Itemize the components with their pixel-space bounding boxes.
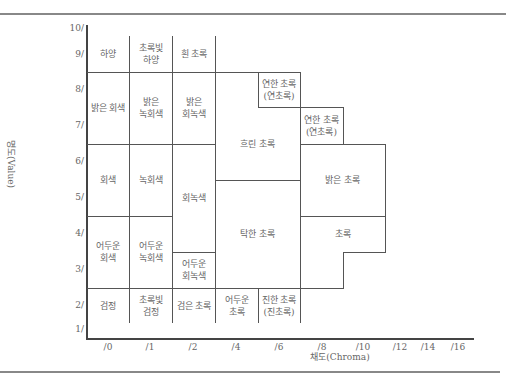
x-tick: /10 xyxy=(348,342,378,352)
y-tick: 4/ xyxy=(60,228,84,238)
region-label: 녹회색 xyxy=(130,144,172,216)
grid-line xyxy=(343,107,344,144)
region-label: 연한 초록 (연초록) xyxy=(258,72,300,108)
x-tick: /12 xyxy=(385,342,415,352)
x-tick: /2 xyxy=(178,342,208,352)
y-tick: 7/ xyxy=(60,120,84,130)
region-label: 흰 초록 xyxy=(173,36,215,72)
region-label: 연한 초록 (연초록) xyxy=(300,107,343,144)
y-tick: 9/ xyxy=(60,49,84,59)
grid-line xyxy=(343,252,344,288)
region-label: 초록 xyxy=(300,216,385,252)
region-label: 어두운 회색 xyxy=(87,216,129,288)
y-tick: 3/ xyxy=(60,264,84,274)
region-label: 밝은 녹회색 xyxy=(130,72,172,144)
region-label: 검은 초록 xyxy=(173,288,215,324)
region-label: 밝은 초록 xyxy=(300,144,385,216)
y-tick: 1/ xyxy=(60,324,84,334)
x-tick: /8 xyxy=(307,342,337,352)
region-label: 탁한 초록 xyxy=(215,180,300,288)
x-tick: /1 xyxy=(135,342,165,352)
x-axis xyxy=(86,338,474,340)
region-label: 흐린 초록 xyxy=(215,108,300,180)
region-label: 하양 xyxy=(87,36,129,72)
y-axis-label: 명도(Value) xyxy=(5,140,18,200)
region-label: 초록빛 검정 xyxy=(130,288,172,324)
region-label: 검정 xyxy=(87,288,129,324)
y-tick: 2/ xyxy=(60,300,84,310)
y-tick: 6/ xyxy=(60,156,84,166)
region-label: 어두운 녹회색 xyxy=(130,216,172,288)
x-tick: /6 xyxy=(264,342,294,352)
x-tick: /4 xyxy=(221,342,251,352)
grid-line xyxy=(343,252,386,253)
bottom-border xyxy=(0,371,500,373)
region-label: 회색 xyxy=(87,144,129,216)
grid-line xyxy=(385,144,386,252)
x-tick: /16 xyxy=(443,342,473,352)
region-label: 밝은 회녹색 xyxy=(173,72,215,144)
region-label: 회녹색 xyxy=(173,144,215,252)
region-label: 어두운 초록 xyxy=(215,288,258,324)
x-tick: /0 xyxy=(93,342,123,352)
top-border xyxy=(0,13,506,15)
y-tick: 10/ xyxy=(60,23,84,33)
region-label: 어두운 회녹색 xyxy=(173,252,215,288)
region-label: 초록빛 하양 xyxy=(130,36,172,72)
region-label: 밝은 회색 xyxy=(87,72,129,144)
y-tick: 8/ xyxy=(60,84,84,94)
y-tick: 5/ xyxy=(60,192,84,202)
region-label: 진한 초록 (진초록) xyxy=(258,288,300,324)
x-tick: /14 xyxy=(413,342,443,352)
